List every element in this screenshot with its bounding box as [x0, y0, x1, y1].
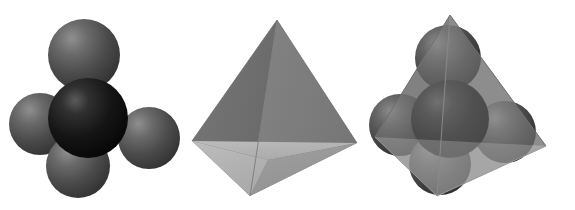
methane-tetrahedron-figure: Ball-and-stick model of methane Solid te…	[0, 0, 575, 210]
figure-canvas	[0, 0, 575, 210]
carbon-center	[48, 78, 128, 158]
